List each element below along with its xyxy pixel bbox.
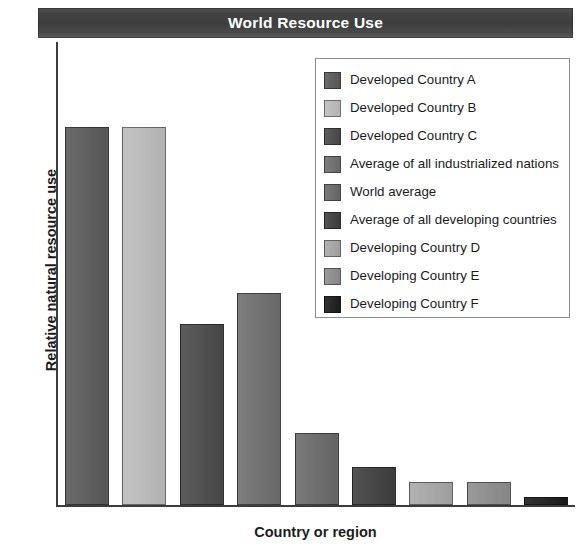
y-axis-title: Relative natural resource use bbox=[43, 140, 59, 400]
legend-item: Developed Country B bbox=[324, 94, 569, 122]
chart-figure: World Resource Use Relative natural reso… bbox=[0, 0, 585, 547]
legend-swatch-icon bbox=[324, 268, 341, 285]
legend-label: Developed Country A bbox=[350, 73, 476, 86]
legend-item: Developing Country E bbox=[324, 262, 569, 290]
legend-swatch-icon bbox=[324, 184, 341, 201]
bar bbox=[467, 482, 511, 505]
bar bbox=[237, 293, 281, 505]
bar bbox=[524, 497, 568, 505]
legend-swatch-icon bbox=[324, 156, 341, 173]
legend-item: Developing Country F bbox=[324, 290, 569, 318]
legend-swatch-icon bbox=[324, 240, 341, 257]
legend-swatch-icon bbox=[324, 72, 341, 89]
legend-item: Average of all industrialized nations bbox=[324, 150, 569, 178]
chart-title-band: World Resource Use bbox=[38, 8, 573, 38]
bar bbox=[65, 127, 109, 505]
legend-label: Developed Country C bbox=[350, 129, 477, 142]
bar bbox=[295, 433, 339, 505]
legend-label: World average bbox=[350, 185, 436, 198]
bar bbox=[409, 482, 453, 505]
legend-item: Average of all developing countries bbox=[324, 206, 569, 234]
legend-label: Developing Country F bbox=[350, 297, 479, 310]
legend-item: Developed Country A bbox=[324, 66, 569, 94]
legend-label: Average of all developing countries bbox=[350, 213, 557, 226]
chart-legend: Developed Country ADeveloped Country BDe… bbox=[315, 58, 570, 318]
bar bbox=[180, 324, 224, 505]
legend-swatch-icon bbox=[324, 296, 341, 313]
legend-swatch-icon bbox=[324, 128, 341, 145]
legend-item: Developed Country C bbox=[324, 122, 569, 150]
legend-label: Developed Country B bbox=[350, 101, 476, 114]
legend-label: Average of all industrialized nations bbox=[350, 157, 559, 170]
legend-swatch-icon bbox=[324, 100, 341, 117]
legend-item: World average bbox=[324, 178, 569, 206]
bar bbox=[122, 127, 166, 505]
legend-swatch-icon bbox=[324, 212, 341, 229]
legend-label: Developing Country E bbox=[350, 269, 479, 282]
x-axis-line bbox=[56, 505, 575, 507]
bar bbox=[352, 467, 396, 505]
chart-title: World Resource Use bbox=[228, 15, 383, 31]
x-axis-title: Country or region bbox=[56, 524, 575, 540]
legend-label: Developing Country D bbox=[350, 241, 480, 254]
legend-item: Developing Country D bbox=[324, 234, 569, 262]
